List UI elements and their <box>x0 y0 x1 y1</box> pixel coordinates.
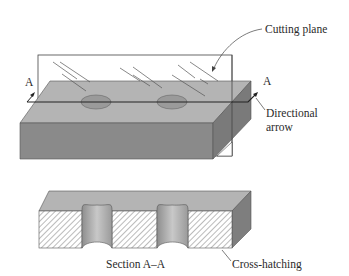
sectioning-diagram: Cutting plane A A Directional arrow Sect… <box>0 0 349 276</box>
isometric-block <box>20 55 258 159</box>
cut-hole-2 <box>157 205 188 248</box>
label-a-right: A <box>263 75 272 87</box>
leader-cross-hatching <box>222 250 231 261</box>
hatch-segment-2 <box>112 211 157 248</box>
label-arrow: arrow <box>266 121 294 133</box>
hatch-segment-1 <box>39 211 82 248</box>
label-cutting-plane: Cutting plane <box>265 23 327 36</box>
leader-directional <box>256 98 265 110</box>
leader-cutting-plane <box>214 29 262 68</box>
label-section-title: Section A–A <box>106 258 166 270</box>
label-cross-hatching: Cross-hatching <box>232 258 302 271</box>
label-a-left: A <box>25 76 34 88</box>
block-front-face <box>20 123 213 159</box>
cut-hole-1 <box>82 205 112 248</box>
hatch-segment-3 <box>188 211 232 248</box>
section-view <box>39 191 251 248</box>
label-directional: Directional <box>266 107 318 119</box>
section-top-face <box>39 191 251 211</box>
